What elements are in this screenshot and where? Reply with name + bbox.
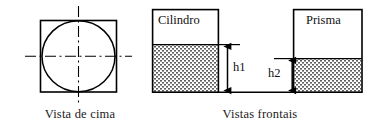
h1-label: h1 [233,60,246,75]
geometry-figure: Cilindro Prisma h1 h2 Vista de cima Vist… [0,0,369,136]
h2-label: h2 [268,66,281,81]
top-view-group [25,6,132,105]
prism-liquid-fill [294,59,361,93]
top-view-caption: Vista de cima [0,107,160,122]
front-views-caption: Vistas frontais [150,107,369,122]
cylinder-label: Cilindro [158,13,200,28]
cylinder-liquid-fill [153,45,217,93]
prism-label: Prisma [306,13,341,28]
